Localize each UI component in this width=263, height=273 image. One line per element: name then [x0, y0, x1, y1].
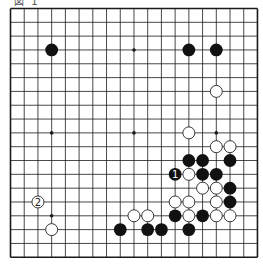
move-number-label: 2 — [35, 197, 41, 208]
star-point — [132, 48, 136, 52]
black-stone — [224, 196, 237, 209]
black-stone — [45, 44, 58, 57]
white-stone — [210, 141, 222, 153]
white-stone — [46, 224, 58, 236]
black-stone — [210, 168, 223, 181]
black-stone — [141, 223, 154, 236]
white-stone — [169, 196, 181, 208]
white-stone — [210, 85, 222, 97]
star-point — [50, 214, 54, 218]
move-number-label: 1 — [172, 169, 178, 180]
white-stone — [224, 141, 236, 153]
black-stone — [210, 44, 223, 57]
white-stone — [183, 210, 195, 222]
white-stone — [210, 210, 222, 222]
black-stone — [182, 154, 195, 167]
black-stone — [196, 168, 209, 181]
go-board: 12 — [0, 0, 263, 273]
black-stone — [182, 223, 195, 236]
white-stone — [183, 127, 195, 139]
white-stone — [183, 196, 195, 208]
white-stone — [210, 182, 222, 194]
white-stone — [142, 210, 154, 222]
white-stone — [183, 168, 195, 180]
black-stone — [224, 182, 237, 195]
white-stone — [224, 210, 236, 222]
black-stone — [169, 209, 182, 222]
white-stone — [128, 210, 140, 222]
white-stone-move-2: 2 — [32, 196, 44, 208]
black-stone — [196, 154, 209, 167]
star-point — [50, 131, 54, 135]
black-stone — [155, 223, 168, 236]
black-stone — [182, 44, 195, 57]
white-stone — [210, 196, 222, 208]
star-point — [132, 131, 136, 135]
white-stone — [197, 182, 209, 194]
black-stone — [224, 154, 237, 167]
black-stone-move-1: 1 — [169, 168, 182, 181]
star-point — [215, 131, 219, 135]
black-stone — [196, 209, 209, 222]
black-stone — [114, 223, 127, 236]
